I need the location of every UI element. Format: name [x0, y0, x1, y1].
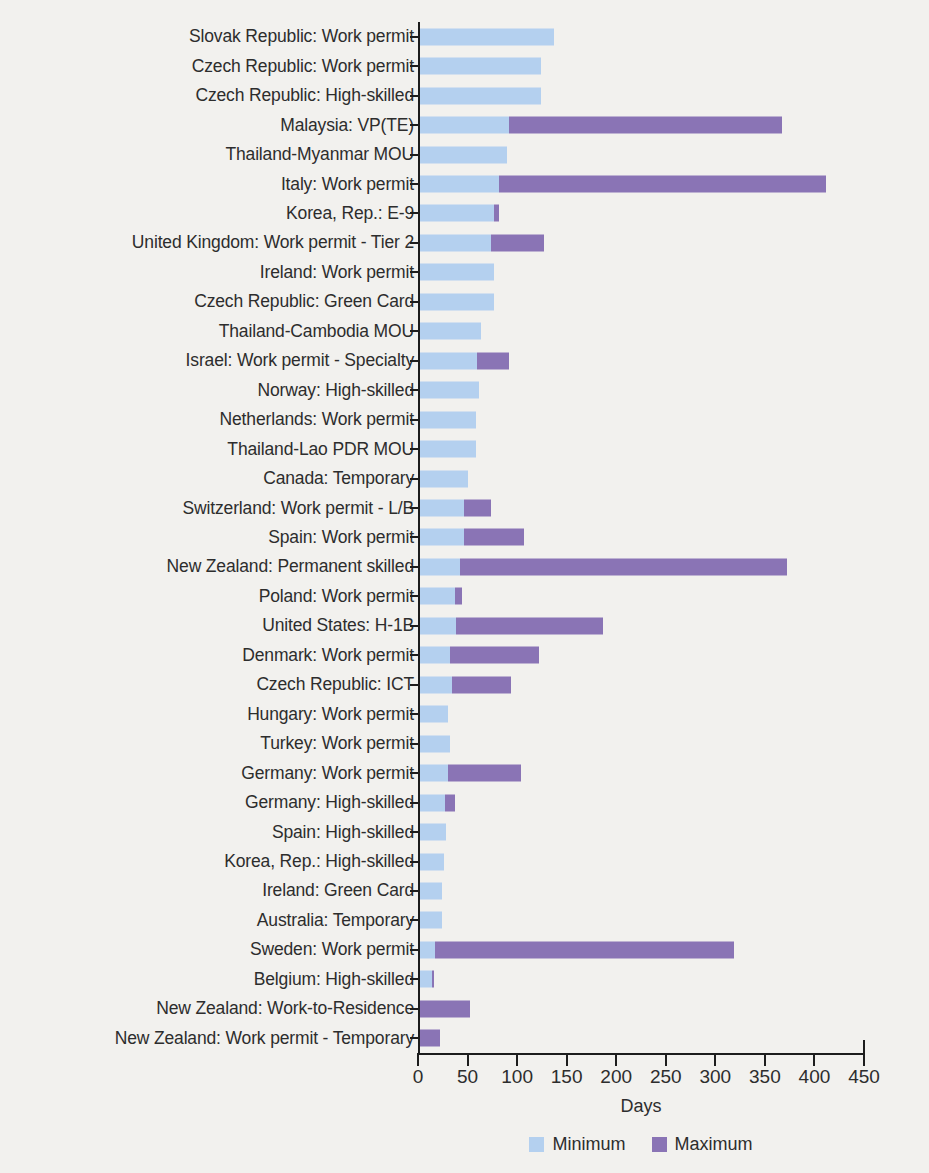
bar-row: Korea, Rep.: High-skilled: [0, 847, 929, 876]
bar-group: [420, 140, 866, 169]
bar-minimum: [420, 676, 452, 693]
y-axis-tick: [410, 95, 418, 97]
bar-minimum: [420, 794, 445, 811]
bar-minimum: [420, 941, 435, 958]
bar-maximum: [432, 971, 434, 988]
bar-row: Turkey: Work permit: [0, 729, 929, 758]
x-axis-tick: [615, 1055, 617, 1066]
y-axis-tick: [410, 1008, 418, 1010]
bar-group: [420, 228, 866, 257]
bar-minimum: [420, 765, 448, 782]
bar-maximum: [455, 588, 462, 605]
bar-minimum: [420, 264, 494, 281]
bar-row: Germany: High-skilled: [0, 788, 929, 817]
bar-group: [420, 817, 866, 846]
bar-group: [420, 287, 866, 316]
bar-row-label: Slovak Republic: Work permit: [0, 26, 414, 47]
bar-row: Thailand-Myanmar MOU: [0, 140, 929, 169]
bar-row-label: Turkey: Work permit: [0, 733, 414, 754]
bar-row: Switzerland: Work permit - L/B: [0, 493, 929, 522]
y-axis-tick: [410, 861, 418, 863]
y-axis-tick: [410, 36, 418, 38]
bar-group: [420, 965, 866, 994]
bar-maximum: [499, 176, 826, 193]
bar-row: Korea, Rep.: E-9: [0, 199, 929, 228]
bar-row: Netherlands: Work permit: [0, 405, 929, 434]
bar-group: [420, 758, 866, 787]
x-axis-tick-label: 100: [501, 1066, 533, 1088]
bar-row: Canada: Temporary: [0, 464, 929, 493]
y-axis-tick: [410, 978, 418, 980]
y-axis-tick: [410, 301, 418, 303]
bar-minimum: [420, 441, 476, 458]
bar-minimum: [420, 529, 464, 546]
bar-row: Norway: High-skilled: [0, 375, 929, 404]
bar-row: Australia: Temporary: [0, 906, 929, 935]
x-axis-tick: [714, 1055, 716, 1066]
bar-group: [420, 847, 866, 876]
bar-maximum: [464, 529, 524, 546]
bar-row-label: Czech Republic: High-skilled: [0, 85, 414, 106]
y-axis-tick: [410, 890, 418, 892]
bar-minimum: [420, 588, 455, 605]
bar-row: Czech Republic: ICT: [0, 670, 929, 699]
bar-row-label: Malaysia: VP(TE): [0, 115, 414, 136]
legend-item-minimum: Minimum: [529, 1134, 625, 1155]
bar-minimum: [420, 824, 446, 841]
bar-group: [420, 346, 866, 375]
bar-group: [420, 700, 866, 729]
y-axis-tick: [410, 949, 418, 951]
bar-row: Hungary: Work permit: [0, 700, 929, 729]
bar-group: [420, 199, 866, 228]
bar-maximum: [494, 205, 499, 222]
bar-row-label: Thailand-Myanmar MOU: [0, 144, 414, 165]
bar-group: [420, 994, 866, 1023]
bar-minimum: [420, 882, 442, 899]
bar-group: [420, 1024, 866, 1053]
bar-minimum: [420, 912, 442, 929]
bar-row: Ireland: Work permit: [0, 258, 929, 287]
bar-row: Czech Republic: Work permit: [0, 51, 929, 80]
y-axis-tick: [410, 919, 418, 921]
bar-minimum: [420, 617, 456, 634]
bar-group: [420, 22, 866, 51]
x-axis-tick: [764, 1055, 766, 1066]
y-axis-tick: [410, 65, 418, 67]
x-axis-tick-label: 200: [600, 1066, 632, 1088]
bar-row: Thailand-Lao PDR MOU: [0, 434, 929, 463]
bar-maximum: [445, 794, 455, 811]
x-axis-tick-label: 50: [457, 1066, 478, 1088]
bar-row: Czech Republic: High-skilled: [0, 81, 929, 110]
bar-row-label: Belgium: High-skilled: [0, 969, 414, 990]
x-axis-tick-labels: 050100150200250300350400450: [418, 1066, 864, 1092]
y-axis-tick: [410, 271, 418, 273]
bar-row-label: New Zealand: Work permit - Temporary: [0, 1028, 414, 1049]
y-axis-tick: [410, 566, 418, 568]
bar-minimum: [420, 352, 477, 369]
x-axis-tick-label: 400: [799, 1066, 831, 1088]
x-axis-tick: [665, 1055, 667, 1066]
bar-group: [420, 552, 866, 581]
bar-group: [420, 169, 866, 198]
x-axis-tick: [566, 1055, 568, 1066]
legend-label-minimum: Minimum: [552, 1134, 625, 1155]
x-axis-title: Days: [418, 1096, 864, 1117]
bar-row-label: Spain: High-skilled: [0, 822, 414, 843]
y-axis-tick: [410, 831, 418, 833]
bar-group: [420, 434, 866, 463]
bar-maximum: [450, 647, 539, 664]
x-axis-tick-label: 300: [699, 1066, 731, 1088]
bar-minimum: [420, 28, 554, 45]
bar-row: Malaysia: VP(TE): [0, 110, 929, 139]
x-axis-tick: [467, 1055, 469, 1066]
y-axis-tick: [410, 772, 418, 774]
bar-row: Poland: Work permit: [0, 582, 929, 611]
bar-row: New Zealand: Work-to-Residence: [0, 994, 929, 1023]
x-axis-tick: [516, 1055, 518, 1066]
bar-minimum: [420, 58, 541, 75]
bar-row-label: United Kingdom: Work permit - Tier 2: [0, 232, 414, 253]
y-axis-tick: [410, 448, 418, 450]
x-axis-tick-label: 350: [749, 1066, 781, 1088]
bar-maximum: [456, 617, 604, 634]
bar-group: [420, 51, 866, 80]
